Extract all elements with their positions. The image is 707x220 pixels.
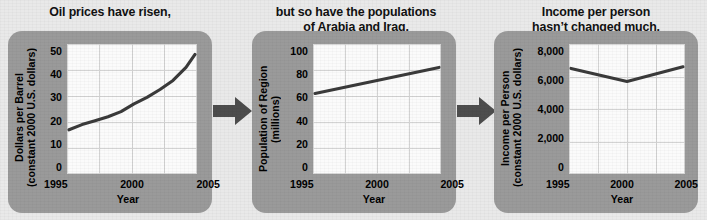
panel-3-y-axis-title: Income per Person (constant 2000 U.S. do… [500, 39, 526, 197]
x-tick: 2005 [196, 178, 220, 190]
panel-1-x-axis-title: Year [48, 193, 208, 205]
panel-3-x-axis-title: Year [550, 193, 694, 205]
y-tick: 60 [296, 93, 308, 101]
panel-1-x-tick-labels: 1995 2000 2005 [44, 178, 220, 190]
y-tick: 30 [50, 93, 62, 101]
y-tick: 4,000 [537, 105, 564, 113]
y-tick: 0 [558, 163, 564, 171]
y-tick: 50 [50, 47, 62, 55]
y-tick: 0 [302, 163, 308, 171]
y-tick: 6,000 [537, 76, 564, 84]
panel-1-y-axis-title: Dollars per Barrel (constant 2000 U.S. d… [14, 39, 40, 197]
panel-2-title: but so have the populations of Arabia an… [250, 5, 462, 34]
y-tick: 10 [50, 140, 62, 148]
chart-panel-population: Population of Region (millions) 100 80 6… [252, 31, 456, 213]
panel-2-x-tick-labels: 1995 2000 2005 [290, 178, 464, 190]
x-tick: 2000 [365, 178, 389, 190]
x-tick: 2000 [610, 178, 634, 190]
y-tick: 100 [290, 47, 308, 55]
x-tick: 1995 [44, 178, 68, 190]
chart-panel-oil-prices: Dollars per Barrel (constant 2000 U.S. d… [8, 31, 212, 213]
panel-2-x-axis-title: Year [294, 193, 454, 205]
x-tick: 1995 [546, 178, 570, 190]
panel-3-plot-area [569, 44, 685, 174]
y-tick: 80 [296, 70, 308, 78]
panel-1-y-tick-labels: 50 40 30 20 10 0 [40, 47, 62, 171]
panel-1-line-series [67, 44, 197, 174]
x-tick: 2005 [674, 178, 698, 190]
arrow-2-icon [457, 96, 497, 126]
panel-3-line-series [569, 44, 685, 174]
infographic-stage: Oil prices have risen, Dollars per Barre… [0, 0, 707, 220]
y-tick: 40 [50, 70, 62, 78]
y-tick: 8,000 [537, 47, 564, 55]
y-tick: 2,000 [537, 134, 564, 142]
panel-3-x-tick-labels: 1995 2000 2005 [546, 178, 698, 190]
x-tick: 1995 [290, 178, 314, 190]
panel-2-y-tick-labels: 100 80 60 40 20 0 [282, 47, 308, 171]
chart-panel-income: Income per Person (constant 2000 U.S. do… [494, 31, 698, 213]
x-tick: 2005 [440, 178, 464, 190]
arrow-1-icon [213, 96, 253, 126]
panel-3-title: Income per person hasn’t changed much. [492, 5, 700, 34]
y-tick: 20 [296, 140, 308, 148]
x-tick: 2000 [120, 178, 144, 190]
y-tick: 0 [56, 163, 62, 171]
panel-2-plot-area [313, 44, 441, 174]
panel-2-y-axis-title: Population of Region (millions) [258, 43, 284, 195]
panel-1-plot-area [67, 44, 197, 174]
panel-1-title: Oil prices have risen, [8, 5, 212, 20]
panel-3-y-tick-labels: 8,000 6,000 4,000 2,000 0 [524, 47, 564, 171]
y-tick: 20 [50, 117, 62, 125]
panel-2-line-series [313, 44, 441, 174]
y-tick: 40 [296, 117, 308, 125]
